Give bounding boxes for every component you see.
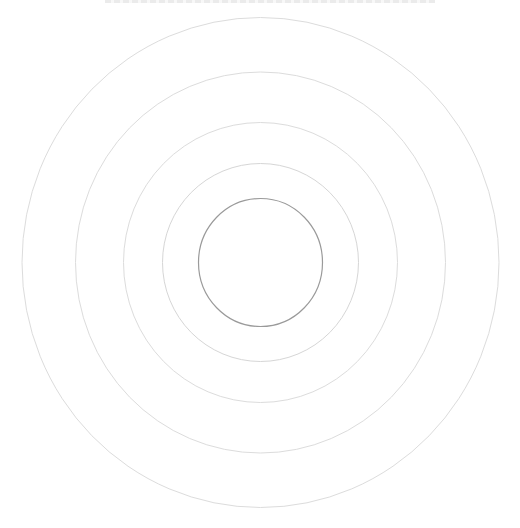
ring-2 <box>76 72 446 453</box>
ring-4 <box>163 164 359 362</box>
ring-5-inner <box>199 199 323 327</box>
ring-1-outer <box>22 18 499 508</box>
ring-3 <box>124 123 398 403</box>
concentric-rings-diagram <box>0 0 520 528</box>
